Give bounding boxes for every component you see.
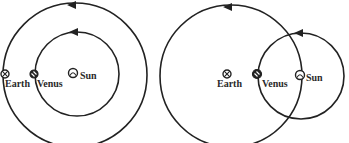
earth-label: Earth: [217, 78, 242, 89]
arrow-icon: [223, 3, 232, 11]
sun-label: Sun: [306, 72, 323, 83]
earth-label: Earth: [5, 78, 30, 89]
venus-icon: [30, 70, 38, 78]
earth-icon: [223, 70, 231, 78]
venus-icon: [253, 70, 262, 79]
arrow-icon: [294, 29, 303, 37]
panel-geocentric: Earth Venus Sun: [160, 3, 344, 143]
arrow-icon: [69, 28, 78, 36]
earth-icon: [1, 70, 9, 78]
venus-label: Venus: [262, 78, 288, 89]
venus-label: Venus: [37, 78, 63, 89]
orbit-diagram: Earth Venus Sun Earth Venus: [0, 0, 349, 143]
sun-icon: [296, 71, 305, 80]
sun-label: Sun: [80, 70, 97, 81]
sun-icon: [69, 69, 78, 78]
panel-heliocentric: Earth Venus Sun: [1, 1, 147, 143]
arrow-icon: [67, 1, 76, 9]
